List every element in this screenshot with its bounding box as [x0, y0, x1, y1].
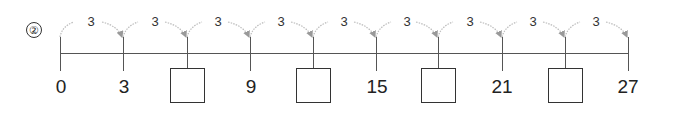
- tick-mark: [628, 37, 629, 71]
- jump-label: 3: [340, 14, 347, 29]
- jump-arc: [60, 22, 74, 37]
- tick-mark: [250, 37, 251, 71]
- jump-label: 3: [214, 14, 221, 29]
- jump-label: 3: [151, 14, 158, 29]
- tick-mark: [313, 37, 314, 68]
- tick-label: 3: [119, 76, 130, 98]
- answer-box[interactable]: [296, 68, 331, 103]
- tick-mark: [438, 37, 439, 68]
- jump-label: 3: [403, 14, 410, 29]
- jump-arc: [102, 22, 122, 37]
- number-line-diagram: ② 3 3 3 3 3: [0, 0, 675, 113]
- jump-label: 3: [529, 14, 536, 29]
- tick-mark: [123, 37, 124, 71]
- tick-mark: [376, 37, 377, 71]
- answer-box[interactable]: [421, 68, 456, 103]
- jump-label: 3: [87, 14, 94, 29]
- number-line-axis: [60, 53, 629, 54]
- jump-label: 3: [466, 14, 473, 29]
- tick-label: 9: [246, 76, 257, 98]
- tick-label: 27: [617, 76, 638, 98]
- tick-mark: [187, 37, 188, 68]
- tick-mark: [565, 37, 566, 68]
- tick-label: 21: [491, 76, 512, 98]
- tick-mark: [502, 37, 503, 71]
- tick-label: 0: [56, 76, 67, 98]
- jump-label: 3: [277, 14, 284, 29]
- tick-label: 15: [366, 76, 387, 98]
- tick-mark: [60, 37, 61, 71]
- answer-box[interactable]: [548, 68, 583, 103]
- jump-label: 3: [592, 14, 599, 29]
- answer-box[interactable]: [170, 68, 205, 103]
